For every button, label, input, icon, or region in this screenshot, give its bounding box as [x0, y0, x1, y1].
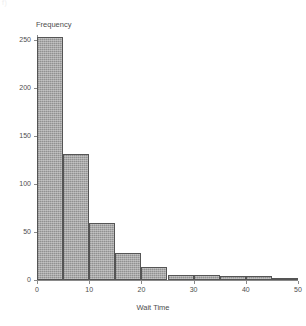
page-artifact-text: f)	[2, 0, 7, 6]
x-axis-tick	[194, 281, 195, 284]
y-axis-tick-label: 150	[5, 132, 31, 139]
histogram-bar	[37, 37, 63, 280]
x-axis-tick-label: 10	[74, 286, 104, 293]
histogram-bar	[194, 275, 220, 280]
y-axis-tick	[34, 280, 37, 281]
y-axis-tick	[34, 88, 37, 89]
y-axis-tick	[34, 136, 37, 137]
y-axis-tick-label: 100	[5, 180, 31, 187]
histogram-bar	[168, 275, 194, 280]
y-axis-title: Frequency	[36, 20, 71, 29]
y-axis-tick-label: 0	[5, 276, 31, 283]
y-axis-tick	[34, 40, 37, 41]
y-axis-tick-label: 250	[5, 36, 31, 43]
x-axis-tick-label: 50	[283, 286, 306, 293]
y-axis-tick	[34, 184, 37, 185]
x-axis-tick-label: 30	[179, 286, 209, 293]
histogram-bar	[246, 276, 272, 280]
histogram-bar	[141, 267, 167, 280]
histogram-bar	[89, 223, 115, 280]
x-axis-title: Wait Time	[0, 303, 306, 312]
histogram-bar	[272, 278, 298, 280]
y-axis-tick-label: 50	[5, 228, 31, 235]
histogram-chart: f) Frequency 01020304050050100150200250 …	[0, 0, 306, 326]
x-axis-tick	[246, 281, 247, 284]
x-axis-tick-label: 40	[231, 286, 261, 293]
x-axis-tick	[37, 281, 38, 284]
x-axis-line	[37, 280, 298, 281]
x-axis-tick	[298, 281, 299, 284]
histogram-bar	[115, 253, 141, 280]
x-axis-tick	[141, 281, 142, 284]
y-axis-tick-label: 200	[5, 84, 31, 91]
y-axis-tick	[34, 232, 37, 233]
histogram-bar	[220, 276, 246, 280]
x-axis-tick-label: 0	[22, 286, 52, 293]
x-axis-tick-label: 20	[126, 286, 156, 293]
histogram-bar	[63, 154, 89, 280]
x-axis-tick	[89, 281, 90, 284]
